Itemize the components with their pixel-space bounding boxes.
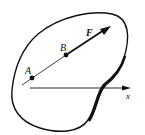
point-b-marker (64, 53, 69, 58)
diagram-canvas: A B F x (0, 0, 145, 135)
label-point-a: A (24, 65, 32, 76)
point-a-marker (30, 76, 35, 81)
rigid-body-shadow-edge (89, 56, 125, 121)
x-axis-arrowhead-icon (122, 86, 131, 91)
label-force-f: F (85, 27, 93, 38)
label-point-b: B (60, 42, 66, 53)
rigid-body-diagram: A B F x (0, 0, 145, 135)
label-x-axis: x (125, 91, 130, 101)
force-vector (66, 30, 104, 55)
force-arrowhead-icon (100, 26, 111, 35)
